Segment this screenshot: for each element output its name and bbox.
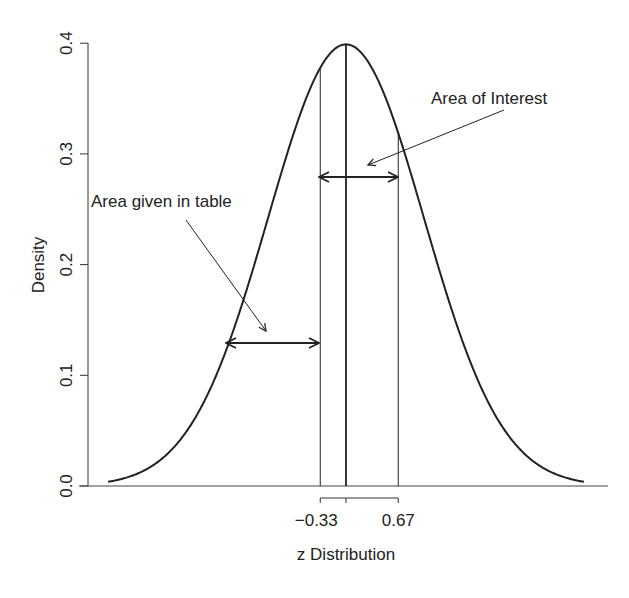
x-tick-label: 0.67 (382, 511, 415, 530)
normal-distribution-chart: 0.00.10.20.30.4 Density −0.330.67 z Dist… (0, 0, 629, 598)
z-value-lines (320, 44, 398, 486)
annotation-area-of-interest: Area of Interest (319, 89, 548, 177)
y-axis: 0.00.10.20.30.4 Density (29, 31, 88, 497)
y-axis-label: Density (29, 236, 48, 293)
y-tick-label: 0.1 (57, 363, 76, 387)
y-tick-label: 0.0 (57, 474, 76, 498)
x-axis-label: z Distribution (297, 545, 395, 564)
annotation-area-given-in-table: Area given in table (91, 192, 319, 343)
y-tick-label: 0.3 (57, 142, 76, 166)
y-tick-label: 0.2 (57, 253, 76, 277)
annotation-label: Area of Interest (431, 89, 548, 108)
annotation-label: Area given in table (91, 192, 232, 211)
x-axis-ticks: −0.330.67 (295, 498, 415, 530)
x-tick-label: −0.33 (295, 511, 338, 530)
y-tick-label: 0.4 (57, 31, 76, 55)
